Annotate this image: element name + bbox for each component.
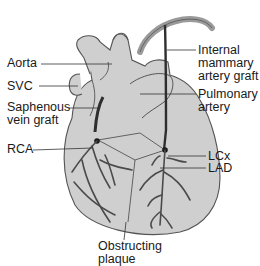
heart-illustration <box>0 0 260 266</box>
heart-bypass-diagram: Aorta SVC Saphenous vein graft RCA Inter… <box>0 0 260 266</box>
label-pulmonary-2: artery <box>198 101 230 114</box>
label-internal-3: artery graft <box>198 70 258 83</box>
label-saphenous-2: vein graft <box>7 114 58 127</box>
label-svc: SVC <box>7 80 33 93</box>
label-rca: RCA <box>7 143 33 156</box>
svc <box>69 74 82 95</box>
label-obstructing-2: plaque <box>98 253 136 266</box>
label-lad: LAD <box>208 162 232 175</box>
label-aorta: Aorta <box>7 57 37 70</box>
